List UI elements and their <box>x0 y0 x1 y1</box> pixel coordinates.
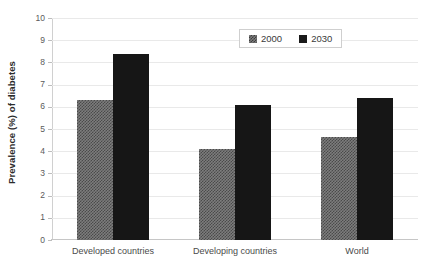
y-tick-label: 3 <box>40 167 45 179</box>
plot-area: 012345678910 <box>52 18 418 240</box>
bar-2000-0 <box>77 100 113 240</box>
y-tick-label: 1 <box>40 211 45 223</box>
legend-entry-2030: 2030 <box>299 33 332 44</box>
y-axis-title-text: Prevalence (%) of diabetes <box>6 61 17 184</box>
bar-2000-1 <box>199 149 235 240</box>
x-axis-category-labels: Developed countriesDeveloping countriesW… <box>52 246 418 262</box>
x-axis-label-2: World <box>345 246 368 256</box>
y-tick-mark <box>48 240 52 241</box>
legend-label-2030: 2030 <box>311 33 332 44</box>
y-tick-label: 6 <box>40 100 45 112</box>
legend-swatch-2030-icon <box>299 35 307 43</box>
bar-group <box>321 18 393 240</box>
y-tick-label: 4 <box>40 145 45 157</box>
legend-entry-2000: 2000 <box>249 33 282 44</box>
y-tick-label: 0 <box>40 234 45 246</box>
bar-group <box>77 18 149 240</box>
bar-group <box>199 18 271 240</box>
legend-swatch-2000-icon <box>249 35 257 43</box>
y-tick-label: 5 <box>40 123 45 135</box>
y-tick-label: 8 <box>40 56 45 68</box>
bar-2000-2 <box>321 137 357 240</box>
legend-label-2000: 2000 <box>261 33 282 44</box>
y-tick-label: 9 <box>40 34 45 46</box>
bar-2030-0 <box>113 54 149 240</box>
diabetes-prevalence-bar-chart: Prevalence (%) of diabetes 012345678910 … <box>0 0 430 272</box>
x-axis-label-1: Developing countries <box>193 246 277 256</box>
y-tick-label: 2 <box>40 189 45 201</box>
bar-2030-1 <box>235 105 271 240</box>
y-tick-label: 7 <box>40 78 45 90</box>
bar-2030-2 <box>357 98 393 240</box>
x-axis-label-0: Developed countries <box>72 246 154 256</box>
y-axis-title: Prevalence (%) of diabetes <box>0 0 22 244</box>
y-tick-label: 10 <box>36 12 45 24</box>
bars-layer <box>52 18 418 240</box>
chart-legend: 2000 2030 <box>239 29 342 48</box>
